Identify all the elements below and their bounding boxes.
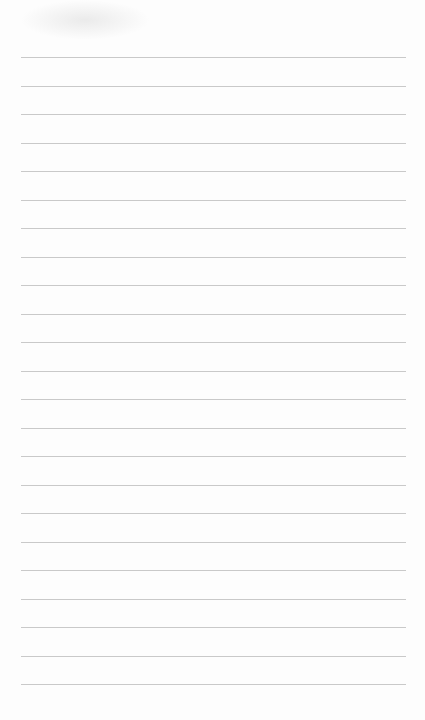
ruled-line — [21, 342, 406, 343]
ruled-line — [21, 257, 406, 258]
ruled-line — [21, 171, 406, 172]
ruled-line — [21, 143, 406, 144]
ruled-line — [21, 485, 406, 486]
ruled-line — [21, 57, 406, 58]
ruled-line — [21, 599, 406, 600]
ruled-line — [21, 371, 406, 372]
ruled-line — [21, 684, 406, 685]
ruled-line — [21, 86, 406, 87]
ruled-line — [21, 314, 406, 315]
ruled-line — [21, 399, 406, 400]
ruled-line — [21, 456, 406, 457]
smudge-mark — [20, 0, 150, 40]
ruled-line — [21, 627, 406, 628]
ruled-line — [21, 200, 406, 201]
lined-paper — [0, 0, 425, 720]
ruled-line — [21, 542, 406, 543]
ruled-line — [21, 114, 406, 115]
ruled-line — [21, 428, 406, 429]
ruled-line — [21, 513, 406, 514]
ruled-line — [21, 570, 406, 571]
ruled-line — [21, 228, 406, 229]
ruled-line — [21, 656, 406, 657]
ruled-line — [21, 285, 406, 286]
